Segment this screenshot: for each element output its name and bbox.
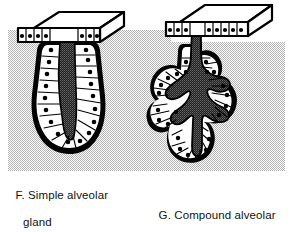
caption-compound-alveolar-gland: G. Compound alveolar gland [152, 195, 276, 232]
caption-g-line1: G. Compound alveolar [159, 209, 276, 221]
surface-epithelium-slab-2 [166, 5, 272, 36]
caption-f-line2: gland [9, 216, 108, 230]
caption-f-line1: F. Simple alveolar [16, 189, 109, 201]
caption-simple-alveolar-gland: F. Simple alveolar gland [9, 175, 108, 232]
surface-epithelium-slab [18, 12, 124, 42]
